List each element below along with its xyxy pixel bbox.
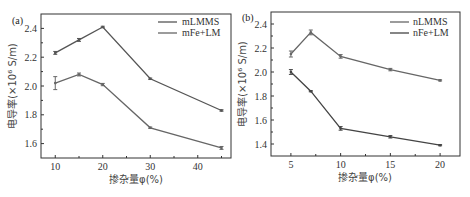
y-tick-label: 1.8: [25, 109, 38, 120]
legend-label-mfe-lm: mFe+LM: [182, 27, 221, 38]
x-tick-label: 10: [50, 161, 60, 172]
data-point: [339, 127, 342, 130]
chart-panel-a: (a) 1.61.82.02.22.4 10203040 mLMMS mFe+L…: [6, 14, 231, 185]
series-line-mfe-lm: [55, 75, 221, 148]
legend-b: nLMMS nFe+LM: [390, 16, 449, 38]
y-tick-label: 1.6: [25, 138, 38, 149]
data-point: [54, 52, 57, 55]
series-line-nlmms: [291, 32, 440, 80]
data-point: [309, 90, 312, 93]
data-point: [78, 73, 81, 76]
data-point: [149, 126, 152, 129]
data-point: [220, 109, 223, 112]
x-tick-label: 10: [336, 159, 346, 170]
legend-label-nlmms: nLMMS: [413, 16, 447, 27]
y-axis-label-a: 电导率(×10⁶ S/m): [6, 43, 18, 129]
chart-panel-b: (b) 1.41.61.82.02.22.4 5101520 nLMMS nFe…: [236, 12, 460, 183]
data-point: [149, 78, 152, 81]
x-axis-label-b: 掺杂量φ(%): [338, 171, 392, 183]
x-tick-label: 40: [193, 161, 203, 172]
y-tick-label: 2.2: [25, 52, 38, 63]
figure: (a) 1.61.82.02.22.4 10203040 mLMMS mFe+L…: [0, 0, 470, 197]
y-tick-label: 1.4: [255, 139, 268, 150]
data-point: [101, 26, 104, 29]
legend-a: mLMMS mFe+LM: [158, 16, 221, 38]
data-point: [101, 83, 104, 86]
y-tick-label: 2.2: [255, 43, 268, 54]
x-tick-label: 30: [145, 161, 155, 172]
y-tick-label: 2.4: [255, 19, 268, 30]
data-point: [290, 71, 293, 74]
panel-label-b: (b): [242, 12, 254, 24]
data-point: [389, 68, 392, 71]
x-tick-label: 15: [385, 159, 395, 170]
x-tick-label: 20: [98, 161, 108, 172]
legend-label-nfe-lm: nFe+LM: [413, 27, 449, 38]
y-tick-label: 2.0: [25, 81, 38, 92]
y-tick-label: 1.6: [255, 115, 268, 126]
panel-label-a: (a): [12, 15, 23, 27]
x-axis-label-a: 掺杂量φ(%): [109, 173, 163, 185]
data-point: [54, 82, 57, 85]
series-line-nfe-lm: [291, 72, 440, 145]
x-tick-label: 20: [435, 159, 445, 170]
data-point: [78, 39, 81, 42]
y-tick-label: 2.0: [255, 67, 268, 78]
legend-label-mlmms: mLMMS: [182, 16, 219, 27]
data-point: [439, 79, 442, 82]
data-point: [389, 136, 392, 139]
data-point: [290, 53, 293, 56]
y-axis-label-b: 电导率(×10⁶ S/m): [236, 41, 248, 127]
data-point: [220, 147, 223, 150]
data-point: [439, 144, 442, 147]
series-group-a: [53, 26, 223, 150]
x-tick-label: 5: [288, 159, 293, 170]
data-point: [309, 31, 312, 34]
y-tick-label: 2.4: [25, 23, 38, 34]
y-tick-label: 1.8: [255, 91, 268, 102]
data-point: [339, 55, 342, 58]
series-group-b: [289, 30, 442, 147]
